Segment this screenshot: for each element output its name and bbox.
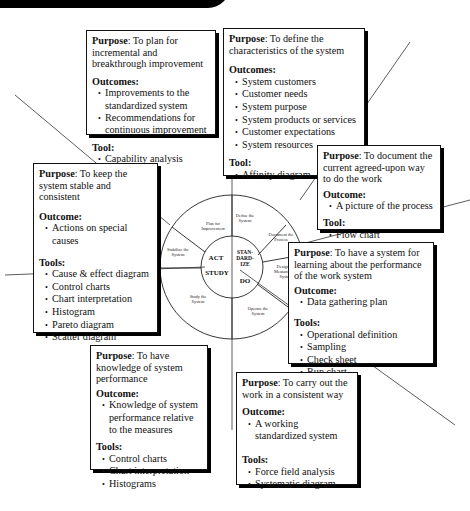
- box-study-the-system: Purpose: To have knowledge of system per…: [90, 345, 208, 470]
- core-study: STUDY: [203, 270, 231, 277]
- list-item: Systematic diagram: [248, 478, 352, 491]
- purpose-label: Purpose: [96, 350, 132, 361]
- list-item: Scatter diagram: [45, 331, 152, 344]
- list-item: A picture of the process: [329, 200, 435, 213]
- core-act: ACT: [205, 255, 227, 262]
- list-item: Sampling: [300, 341, 428, 354]
- core-do: DO: [236, 278, 254, 285]
- box-operate-the-system: Purpose: To carry out the work in a cons…: [236, 372, 358, 485]
- list-item: Control charts: [45, 281, 152, 294]
- list-item: System products or services: [235, 114, 359, 127]
- list-item: Cause & effect diagram: [45, 268, 152, 281]
- purpose-label: Purpose: [242, 377, 278, 388]
- wheel-define-the-system: Define the System: [234, 213, 256, 223]
- list-item: Customer needs: [235, 88, 359, 101]
- list-item: Control charts: [102, 453, 202, 466]
- purpose-label: Purpose: [323, 150, 359, 161]
- list-item: Knowledge of system performance relative…: [102, 399, 202, 435]
- wheel-operate-the-system: Operate the System: [246, 306, 270, 316]
- purpose-label: Purpose: [229, 33, 265, 44]
- list-item: System purpose: [235, 101, 359, 114]
- wheel-plan-for-improvement: Plan for Improvement: [196, 221, 230, 231]
- outcomes-heading: Outcome:: [96, 388, 202, 400]
- outcomes-heading: Outcomes:: [92, 76, 210, 88]
- tools-heading: Tools:: [294, 317, 428, 329]
- tools-heading: Tools:: [242, 454, 352, 466]
- tools-heading: Tool:: [92, 142, 210, 154]
- outcomes-heading: Outcome:: [323, 189, 435, 201]
- purpose-label: Purpose: [92, 35, 128, 46]
- box-plan-for-improvement: Purpose: To plan for incremental and bre…: [86, 30, 216, 135]
- list-item: System customers: [235, 76, 359, 89]
- list-item: Customer expectations: [235, 126, 359, 139]
- outcomes-heading: Outcome:: [242, 406, 352, 418]
- tools-heading: Tool:: [323, 217, 435, 229]
- core-standardize: STAN- DARD- IZE: [234, 249, 256, 267]
- tools-heading: Tools:: [96, 441, 202, 453]
- wheel-stabilize-the-system: Stabilize the System: [164, 247, 192, 257]
- box-design-measurement-system: Purpose: To have a system for learning a…: [288, 242, 434, 364]
- list-item: Histogram: [45, 306, 152, 319]
- list-item: Histograms: [102, 478, 202, 491]
- wheel-study-the-system: Study the System: [184, 294, 212, 304]
- list-item: Data gathering plan: [300, 296, 428, 309]
- box-document-the-process: Purpose: To document the current agreed-…: [317, 145, 441, 230]
- list-item: Actions on special causes: [45, 222, 152, 246]
- outcomes-heading: Outcome:: [39, 211, 152, 223]
- box-stabilize-the-system: Purpose: To keep the system stable and c…: [33, 163, 158, 333]
- purpose-label: Purpose: [39, 168, 75, 179]
- list-item: Pareto diagram: [45, 319, 152, 332]
- list-item: A working standardized system: [248, 418, 352, 442]
- list-item: Flow chart: [329, 229, 435, 242]
- list-item: Chart interpretation: [102, 465, 202, 478]
- list-item: Force field analysis: [248, 466, 352, 479]
- list-item: Improvements to the standardized system: [98, 87, 210, 111]
- list-item: Chart interpretation: [45, 293, 152, 306]
- list-item: Recommendations for continuous improveme…: [98, 112, 210, 136]
- outcomes-heading: Outcomes:: [229, 64, 359, 76]
- purpose-label: Purpose: [294, 247, 330, 258]
- outcomes-heading: Outcome:: [294, 285, 428, 297]
- wheel-document-the-process: Document the Process: [268, 232, 294, 242]
- tools-heading: Tools:: [39, 257, 152, 269]
- list-item: Check sheet: [300, 354, 428, 367]
- list-item: Operational definition: [300, 329, 428, 342]
